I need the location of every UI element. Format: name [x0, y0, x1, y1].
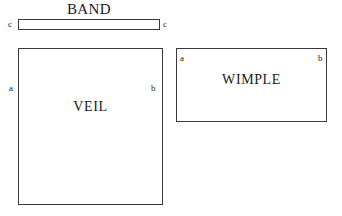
band-label-c-left: c: [8, 19, 12, 30]
wimple-title: WIMPLE: [176, 72, 327, 88]
wimple-label-b-right: b: [318, 53, 323, 64]
wimple-label-a-left: a: [180, 53, 184, 64]
band-label-c-right: c: [163, 19, 167, 30]
band-title: BAND: [0, 1, 178, 17]
veil-label-b-right: b: [151, 83, 156, 94]
veil-label-a-left: a: [9, 83, 13, 94]
veil-piece-rectangle: [18, 48, 163, 205]
veil-title: VEIL: [18, 99, 163, 115]
band-piece-rectangle: [18, 19, 160, 30]
pattern-diagram: BAND c c VEIL a b WIMPLE a b: [0, 0, 342, 216]
